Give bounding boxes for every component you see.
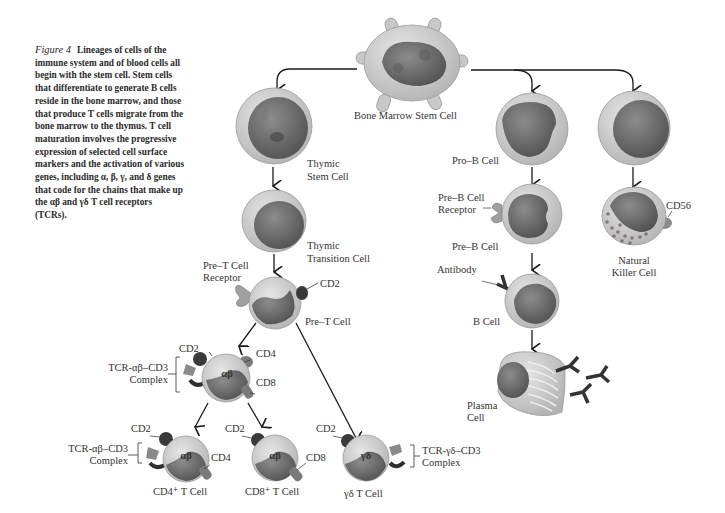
label-pro-b-cell: Pro–B Cell [452, 155, 499, 167]
pre-b-cell-receptor-icon [491, 203, 502, 223]
label-cd8-dp: CD8 [256, 377, 276, 389]
label-natural-killer-2: Killer Cell [604, 267, 664, 279]
label-cd2-gdt: CD2 [316, 423, 336, 435]
label-tcr-ab-complex-cd4-1: TCR-αβ–CD3 [40, 443, 128, 455]
cd2-marker-icon [296, 286, 308, 300]
label-plasma-cell-2: Cell [467, 412, 485, 424]
label-cd4-t-cell: CD4⁺ T Cell [153, 486, 207, 498]
label-cd2-pre-t: CD2 [320, 278, 340, 290]
label-antibody: Antibody [437, 264, 477, 276]
natural-killer-cell [602, 187, 672, 245]
thymic-stem-cell [236, 88, 312, 164]
label-cd8-cd8t: CD8 [306, 452, 326, 464]
label-gd-symbol: γδ [355, 450, 377, 462]
label-thymic-transition-cell-2: Transition Cell [307, 253, 370, 265]
bone-marrow-stem-cell [356, 16, 468, 113]
label-tcr-ab-complex-cd4-2: Complex [40, 455, 128, 467]
label-cd8-t-cell: CD8⁺ T Cell [245, 486, 299, 498]
label-pre-t-receptor-1: Pre–T Cell [203, 260, 249, 272]
label-pre-t-receptor-2: Receptor [203, 272, 241, 284]
label-pre-b-cell: Pre–B Cell [452, 241, 498, 253]
label-ab-symbol-cd4: αβ [175, 450, 197, 462]
label-tcr-ab-complex-1: TCR-αβ–CD3 [80, 362, 168, 374]
b-cell [497, 274, 559, 328]
pre-b-cell [491, 184, 562, 244]
label-pre-t-cell: Pre–T Cell [305, 316, 351, 328]
label-cd4-cd4t: CD4 [211, 452, 231, 464]
tcr-ab-cd3-complex-icon [183, 364, 196, 376]
label-cd2-cd4t: CD2 [131, 423, 151, 435]
tcr-bracket-top [176, 357, 180, 392]
label-bone-marrow-stem-cell: Bone Marrow Stem Cell [354, 110, 457, 122]
label-thymic-stem-cell-1: Thymic [307, 158, 340, 170]
label-tcr-ab-complex-2: Complex [80, 374, 168, 386]
label-thymic-stem-cell-2: Stem Cell [307, 171, 349, 183]
label-pre-b-receptor-1: Pre–B Cell [438, 192, 484, 204]
label-tcr-gd-complex-1: TCR-γδ–CD3 [422, 445, 481, 457]
label-natural-killer-1: Natural [604, 255, 664, 267]
pro-b-cell [496, 93, 568, 165]
nk-precursor-cell [598, 91, 670, 165]
label-cd2-dp: CD2 [179, 343, 199, 355]
label-tcr-gd-complex-2: Complex [422, 457, 461, 469]
label-ab-symbol: αβ [216, 368, 238, 380]
label-ab-symbol-cd8: αβ [264, 450, 286, 462]
label-cd56: CD56 [666, 200, 691, 212]
label-pre-b-receptor-2: Receptor [438, 204, 476, 216]
thymic-transition-cell [242, 190, 306, 252]
label-plasma-cell-1: Plasma [467, 400, 497, 412]
plasma-cell [497, 352, 609, 416]
label-cd4-dp: CD4 [256, 348, 276, 360]
label-b-cell: B Cell [473, 316, 500, 328]
label-cd2-cd8t: CD2 [225, 423, 245, 435]
label-thymic-transition-cell-1: Thymic [307, 240, 340, 252]
label-gd-t-cell: γδ T Cell [344, 488, 383, 500]
